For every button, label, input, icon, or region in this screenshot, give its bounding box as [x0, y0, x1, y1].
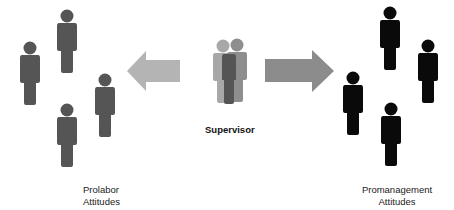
promanagement-person-icon [342, 71, 364, 135]
promanagement-label-line2: Attitudes [358, 196, 436, 208]
prolabor-person-icon [56, 103, 78, 167]
prolabor-person-icon [56, 9, 78, 73]
promanagement-person-icon [417, 39, 439, 103]
prolabor-person-icon [19, 41, 41, 105]
supervisor-label: Supervisor [205, 124, 255, 135]
prolabor-label: Prolabor Attitudes [83, 184, 120, 208]
arrow-right-icon [264, 49, 336, 93]
promanagement-person-icon [380, 102, 402, 166]
supervisor-front-person-icon [222, 54, 236, 104]
prolabor-person-icon [94, 73, 116, 137]
prolabor-label-line2: Attitudes [83, 196, 120, 208]
promanagement-person-icon [379, 6, 401, 70]
promanagement-label-line1: Promanagement [358, 184, 436, 196]
arrow-left-icon [126, 50, 182, 92]
prolabor-label-line1: Prolabor [83, 184, 120, 196]
promanagement-label: Promanagement Attitudes [358, 184, 436, 208]
